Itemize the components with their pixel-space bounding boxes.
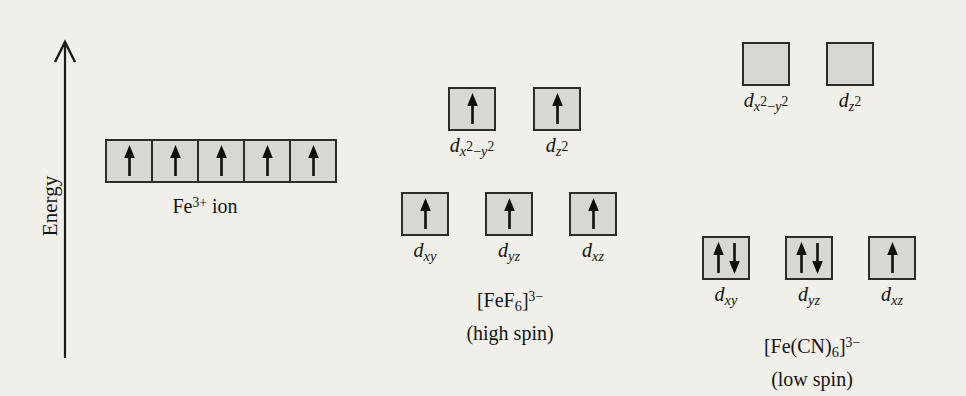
up-arrow-icon (215, 145, 228, 177)
text-segment: d (546, 134, 556, 156)
text-segment: xy (424, 248, 437, 264)
orbital-box (485, 192, 533, 236)
text-segment: xz (592, 248, 604, 264)
up-arrow-icon (169, 145, 182, 177)
text-segment: ] (522, 289, 529, 311)
orbital-box (105, 139, 153, 183)
text-segment: d (582, 239, 592, 261)
text-segment: 3− (846, 335, 860, 350)
level-eg-low-spin: dx2−y2dz2 (742, 42, 874, 113)
orbital: dx2−y2 (448, 87, 496, 158)
orbital: dz2 (826, 42, 874, 113)
orbital-box (533, 87, 581, 131)
caption-fecn6: [Fe(CN)6]3−(low spin) (707, 329, 917, 393)
orbital-box (151, 139, 199, 183)
orbital-label: dz2 (839, 90, 861, 113)
text-segment: Fe (172, 195, 192, 217)
text-segment: 2 (781, 94, 788, 109)
text-segment: (low spin) (771, 368, 853, 390)
text-segment: xz (891, 292, 903, 308)
up-arrow-icon (886, 242, 899, 274)
orbital-label: dz2 (546, 135, 568, 158)
up-arrow-icon (123, 145, 136, 177)
text-segment: xy (725, 292, 738, 308)
level-d-orbitals (105, 139, 337, 183)
orbital-label: dxy (414, 240, 437, 263)
caption-line: [Fe(CN)6]3− (707, 329, 917, 366)
orbital: dxz (569, 192, 617, 263)
up-arrow-icon (419, 198, 432, 230)
text-segment: yz (508, 248, 520, 264)
caption-line: Fe3+ ion (100, 189, 310, 220)
orbital-box (742, 42, 790, 86)
orbital-box (401, 192, 449, 236)
text-segment: yz (808, 292, 820, 308)
text-segment: 2 (466, 139, 473, 154)
orbital-box (243, 139, 291, 183)
up-arrow-icon (551, 93, 564, 125)
text-segment: d (839, 89, 849, 111)
orbital-label: dxy (715, 284, 738, 307)
orbital-label: dx2−y2 (744, 90, 789, 113)
text-segment: d (414, 239, 424, 261)
orbital: dxy (702, 236, 750, 307)
up-arrow-icon (795, 242, 808, 274)
orbital (105, 139, 153, 183)
text-segment: ion (207, 195, 238, 217)
text-segment: − (473, 143, 481, 159)
orbital (243, 139, 291, 183)
orbital: dx2−y2 (742, 42, 790, 113)
caption-line: (low spin) (707, 366, 917, 393)
text-segment: [Fe(CN) (764, 335, 832, 357)
orbital-box (826, 42, 874, 86)
caption-line: [FeF6]3− (420, 283, 600, 320)
orbital: dyz (785, 236, 833, 307)
text-segment: 6 (832, 344, 839, 360)
orbital-box (289, 139, 337, 183)
up-arrow-icon (261, 145, 274, 177)
up-arrow-icon (712, 242, 725, 274)
text-segment: d (798, 283, 808, 305)
text-segment: d (744, 89, 754, 111)
orbital-box (569, 192, 617, 236)
orbital-label: dxz (881, 284, 903, 307)
text-segment: − (767, 98, 775, 114)
text-segment: (high spin) (466, 322, 553, 344)
orbital: dyz (485, 192, 533, 263)
orbital-splitting-diagram: Energy Fe3+ ion dx2−y2dz2 dxydyzdxz [FeF… (0, 0, 966, 396)
orbital: dz2 (533, 87, 581, 158)
orbital-label: dx2−y2 (450, 135, 495, 158)
level-t2g-low-spin: dxydyzdxz (702, 236, 916, 307)
orbital-label: dyz (498, 240, 520, 263)
level-eg-high-spin: dx2−y2dz2 (448, 87, 581, 158)
up-arrow-icon (503, 198, 516, 230)
orbital-box (868, 236, 916, 280)
down-arrow-icon (728, 242, 741, 274)
orbital (289, 139, 337, 183)
level-t2g-high-spin: dxydyzdxz (401, 192, 617, 263)
text-segment: [FeF (477, 289, 515, 311)
text-segment: 6 (515, 298, 522, 314)
orbital: dxy (401, 192, 449, 263)
text-segment: d (450, 134, 460, 156)
text-segment: ] (839, 335, 846, 357)
text-segment: 2 (854, 94, 861, 109)
caption-fe3-ion: Fe3+ ion (100, 189, 310, 220)
up-arrow-icon (587, 198, 600, 230)
up-arrow-icon (466, 93, 479, 125)
energy-axis-label: Energy (38, 176, 63, 236)
text-segment: d (881, 283, 891, 305)
text-segment: d (715, 283, 725, 305)
text-segment: 2 (561, 139, 568, 154)
text-segment: d (498, 239, 508, 261)
orbital (197, 139, 245, 183)
orbital-label: dxz (582, 240, 604, 263)
orbital-label: dyz (798, 284, 820, 307)
text-segment: 2 (760, 94, 767, 109)
orbital (151, 139, 199, 183)
caption-line: (high spin) (420, 320, 600, 347)
text-segment: 2 (487, 139, 494, 154)
orbital-box (197, 139, 245, 183)
caption-fef6: [FeF6]3−(high spin) (420, 283, 600, 347)
down-arrow-icon (811, 242, 824, 274)
